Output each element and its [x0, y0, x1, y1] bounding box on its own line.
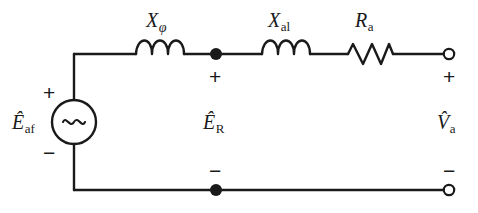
inductor2-label-subscript: al [281, 19, 290, 34]
circuit-diagram: Xφ Xal Ra + Êaf − + ÊR − + V̂a − [0, 0, 478, 213]
inductor1-label: Xφ [146, 10, 166, 35]
middle-minus-sign: − [209, 160, 221, 181]
inductor2-label: Xal [268, 10, 290, 33]
junction-dot-top [210, 48, 222, 60]
output-phasor-label: V̂a [437, 112, 456, 135]
source-minus-sign: − [43, 142, 55, 163]
schematic-canvas [0, 0, 478, 213]
output-phasor-accent: V̂ [437, 111, 449, 133]
middle-phasor-subscript: R [216, 121, 225, 136]
middle-plus-sign: + [209, 66, 221, 87]
inductor2-label-main: X [268, 9, 280, 31]
junction-dot-bottom [210, 184, 222, 196]
inductor1-label-main: X [146, 9, 158, 31]
output-phasor-subscript: a [450, 121, 456, 136]
resistor-label: Ra [355, 10, 374, 33]
source-plus-sign: + [43, 82, 55, 103]
open-terminal-top [444, 49, 454, 59]
ac-source-tilde-glyph [63, 120, 85, 124]
source-phasor-subscript: af [25, 121, 35, 136]
output-plus-sign: + [443, 66, 455, 87]
middle-phasor-accent: Ê [203, 111, 215, 133]
middle-phasor-label: ÊR [203, 112, 224, 135]
output-minus-sign: − [443, 160, 455, 181]
open-terminal-bottom [444, 185, 454, 195]
resistor-zigzag [348, 44, 393, 64]
source-phasor-label: Êaf [12, 112, 35, 135]
inductor1-coils [136, 41, 184, 55]
inductor2-coils [262, 41, 310, 55]
resistor-label-subscript: a [368, 19, 374, 34]
resistor-label-main: R [355, 9, 367, 31]
inductor1-label-subscript: φ [159, 20, 167, 35]
source-phasor-accent: Ê [12, 111, 24, 133]
